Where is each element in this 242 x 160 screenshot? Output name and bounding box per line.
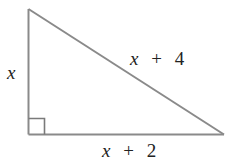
left-leg-label: x xyxy=(6,62,16,83)
bottom-leg-operator: + xyxy=(123,140,134,160)
hypotenuse-constant: 4 xyxy=(175,48,185,69)
right-triangle-diagram: x x + 4 x + 2 xyxy=(0,0,242,160)
bottom-leg-label: x + 2 xyxy=(101,140,156,160)
bottom-leg-variable: x xyxy=(101,140,111,160)
right-angle-marker-icon xyxy=(29,119,45,135)
left-leg-variable: x xyxy=(6,62,16,83)
hypotenuse-line xyxy=(29,9,225,135)
hypotenuse-variable: x xyxy=(129,48,139,69)
hypotenuse-label: x + 4 xyxy=(129,48,185,69)
hypotenuse-operator: + xyxy=(151,48,162,69)
bottom-leg-constant: 2 xyxy=(147,140,157,160)
